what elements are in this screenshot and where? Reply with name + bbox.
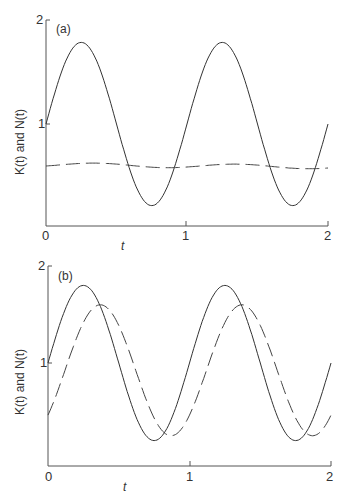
ylabel-b: K(t) and N(t) [13,349,27,415]
ytick-a-2: 2 [36,12,43,27]
k-curve-a [46,42,328,205]
figure: 2 1 0 1 2 t (a) K(t) and N(t) 2 1 0 1 2 … [0,0,347,497]
ytick-b-1: 1 [40,355,47,370]
ytick-b-2: 2 [38,258,45,273]
xtick-a-0: 0 [42,228,49,243]
xtick-b-0: 0 [45,469,52,484]
panel-a [46,20,328,226]
xlabel-a: t [121,239,125,253]
panel-label-a: (a) [56,22,71,36]
n-curve-b [48,305,331,436]
panel-label-b: (b) [58,269,73,283]
k-curve-b [48,285,331,440]
xtick-a-2: 2 [324,228,331,243]
ylabel-a: K(t) and N(t) [13,109,27,175]
chart-svg: 2 1 0 1 2 t (a) K(t) and N(t) 2 1 0 1 2 … [0,0,347,497]
xtick-b-2: 2 [326,469,333,484]
xtick-b-1: 1 [186,469,193,484]
ytick-a-1: 1 [38,116,45,131]
n-curve-a [46,163,328,169]
xtick-a-1: 1 [182,228,189,243]
panel-b [48,266,331,466]
xlabel-b: t [123,480,127,494]
